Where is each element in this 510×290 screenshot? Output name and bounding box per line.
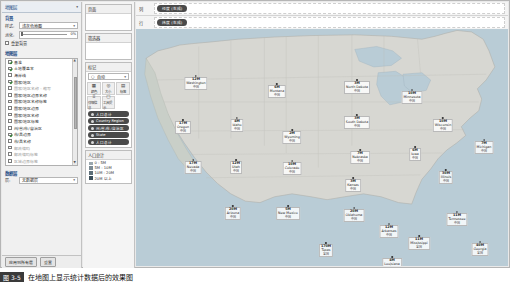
- state-label[interactable]: 2MWyoming中国: [282, 129, 301, 144]
- repeat-background-row[interactable]: 重复背景: [2, 40, 81, 46]
- layer-checkbox[interactable]: [8, 60, 12, 64]
- style-select[interactable]: 浅灰色地图 ▾: [19, 22, 78, 29]
- label-mark-button[interactable]: ▤标签: [116, 82, 130, 95]
- state-label[interactable]: 12MUtah中国: [230, 159, 242, 174]
- scrollbar-thumb[interactable]: [74, 77, 77, 129]
- chevron-down-icon: ▾: [73, 178, 75, 182]
- map-canvas[interactable]: 12MWashington中国17MOregon中国6MMontana中国4MI…: [136, 29, 508, 266]
- layer-checkbox[interactable]: [8, 113, 12, 117]
- tooltip-mark-button[interactable]: ▢工具提示: [102, 96, 116, 109]
- state-label[interactable]: 12MWashington中国: [184, 75, 207, 90]
- layer-checkbox[interactable]: [8, 93, 12, 97]
- shelf-columns[interactable]: 列经度 (生成): [136, 2, 508, 16]
- layer-list-item[interactable]: 邮政编码: [6, 144, 72, 151]
- state-label[interactable]: 17MOregon中国: [175, 119, 191, 134]
- layer-checkbox[interactable]: [8, 133, 12, 137]
- marks-type-value: 自动: [97, 74, 105, 80]
- state-label[interactable]: 10MWisconsin中国: [433, 117, 453, 132]
- state-label[interactable]: 7MMichigan中国: [475, 139, 494, 154]
- layer-checkbox[interactable]: [8, 86, 12, 90]
- layer-checkbox[interactable]: [8, 106, 12, 110]
- layer-checkbox[interactable]: [8, 139, 12, 143]
- state-label[interactable]: 4MIdaho中国: [230, 117, 243, 132]
- slider-knob[interactable]: [21, 32, 23, 36]
- layer-list-item[interactable]: 市/县边界: [6, 131, 72, 138]
- layer-list-item[interactable]: 土地覆盖率: [6, 65, 72, 72]
- state-label[interactable]: 6MMontana中国: [268, 83, 286, 98]
- scroll-up-icon[interactable]: ▲: [74, 59, 76, 62]
- washout-slider[interactable]: 0%: [19, 31, 78, 39]
- state-label[interactable]: 170MTexas全国: [319, 242, 333, 257]
- layer-list-item[interactable]: 州/省/市/自治区: [6, 124, 72, 131]
- apply-all-layers-button[interactable]: 应用到所有层: [5, 257, 37, 267]
- layer-list-item[interactable]: 区域边界标签: [6, 157, 72, 164]
- layer-list-item[interactable]: 基准: [6, 59, 72, 66]
- layer-list-item[interactable]: 国家/地区名称 - 缩写: [6, 85, 72, 92]
- state-label[interactable]: 12MArkansas中国: [379, 223, 398, 238]
- layer-list-item[interactable]: 国家/地区名称标签: [6, 98, 72, 105]
- state-label[interactable]: 11MTennessee中国: [446, 211, 467, 226]
- layer-list-item[interactable]: 国家/地区: [6, 78, 72, 85]
- state-label[interactable]: 20MArizona中国: [225, 205, 241, 220]
- state-label[interactable]: 30MIllinois中国: [439, 169, 453, 184]
- chevron-down-icon: ▾: [73, 24, 75, 28]
- mark-pill[interactable]: 人口总计: [88, 111, 129, 117]
- layer-checkbox[interactable]: [8, 100, 12, 104]
- layers-scrollbar[interactable]: ▲ ▼: [72, 59, 77, 165]
- state-label[interactable]: 10MMinnesota中国: [401, 89, 422, 104]
- data-layer-select[interactable]: 无数据层 ▾: [19, 177, 78, 184]
- layer-checkbox[interactable]: [8, 126, 12, 130]
- chevron-down-icon[interactable]: ▾: [76, 5, 78, 9]
- layer-checkbox[interactable]: [8, 146, 12, 150]
- washout-value: 0%: [70, 32, 76, 36]
- state-label[interactable]: 3MNorth Dakota中国: [344, 79, 370, 94]
- layer-list-item[interactable]: 国家/地区名称: [6, 111, 72, 118]
- state-label[interactable]: 3MKansas中国: [345, 177, 361, 192]
- state-label[interactable]: 20MOklahoma中国: [344, 207, 365, 222]
- shelf-pill[interactable]: 经度 (生成): [157, 5, 187, 12]
- layer-list-item[interactable]: 国家/地区标签: [6, 118, 72, 125]
- layer-list-item[interactable]: 国家/地区边界名称: [6, 91, 72, 98]
- detail-mark-button[interactable]: ⠿详细信息: [87, 96, 101, 109]
- layer-checkbox[interactable]: [8, 67, 12, 71]
- state-label[interactable]: 6MIowa中国: [409, 146, 421, 161]
- pages-dropzone[interactable]: [86, 14, 131, 30]
- layer-list-item[interactable]: 海岸线: [6, 72, 72, 79]
- state-label[interactable]: 17MNevada中国: [185, 159, 202, 174]
- layer-checkbox[interactable]: [8, 73, 12, 77]
- state-label[interactable]: 3MSouth Dakota中国: [344, 114, 370, 129]
- state-label[interactable]: 4MLouisiana全国: [382, 256, 402, 266]
- layer-list-item[interactable]: 区域及区域标签: [6, 164, 72, 166]
- state-label[interactable]: 11MMississippi全国: [408, 235, 430, 250]
- reset-button[interactable]: 重置: [40, 257, 56, 267]
- mark-pill[interactable]: 州/省/市/自治区: [88, 125, 129, 131]
- mark-pill[interactable]: Country Region: [88, 118, 129, 124]
- repeat-background-checkbox[interactable]: [5, 41, 9, 45]
- layer-checkbox[interactable]: [8, 119, 12, 123]
- marks-type-select[interactable]: ○ 自动 ▾: [88, 73, 129, 80]
- layer-list-item[interactable]: 市/县名称: [6, 138, 72, 145]
- layer-checkbox[interactable]: [8, 159, 12, 163]
- mark-pill[interactable]: State: [88, 132, 129, 138]
- layer-list-item[interactable]: 国家/地区边界: [6, 105, 72, 112]
- filters-dropzone[interactable]: [86, 43, 131, 59]
- state-sublabel: 中国: [352, 160, 368, 164]
- layers-listbox[interactable]: 基准土地覆盖率海岸线国家/地区国家/地区名称 - 缩写国家/地区边界名称国家/地…: [5, 58, 78, 166]
- shelf-dropzone[interactable]: 经度 (生成): [154, 3, 505, 14]
- color-pill-icon: [91, 113, 94, 116]
- shelf-pill[interactable]: 纬度 (生成): [157, 19, 187, 26]
- layer-list-item[interactable]: 邮政编码标签: [6, 151, 72, 158]
- state-label[interactable]: 7MNebraska中国: [350, 149, 370, 164]
- shelf-rows[interactable]: 行纬度 (生成): [136, 16, 508, 30]
- state-label[interactable]: 10MColorado中国: [283, 160, 302, 175]
- legend-item[interactable]: 20M 以上: [86, 175, 131, 181]
- scroll-down-icon[interactable]: ▼: [74, 161, 76, 164]
- shelf-dropzone[interactable]: 纬度 (生成): [154, 17, 505, 28]
- mark-pill[interactable]: 人口总计: [88, 139, 129, 145]
- state-label[interactable]: 40MGeorgia全国: [472, 241, 489, 256]
- layer-checkbox[interactable]: [8, 80, 12, 84]
- layer-checkbox[interactable]: [8, 152, 12, 156]
- layer-label: 邮政编码标签: [14, 151, 38, 157]
- mark-pill-label: 人口总计: [96, 140, 112, 145]
- state-label[interactable]: 5MNew Mexico中国: [276, 205, 300, 220]
